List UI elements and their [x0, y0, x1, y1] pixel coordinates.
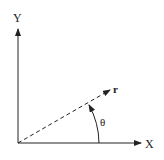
r-vector-line: [18, 90, 110, 143]
theta-label: θ: [100, 116, 105, 128]
r-label: r: [113, 83, 118, 95]
x-axis-label: X: [145, 137, 154, 151]
y-axis-label: Y: [13, 11, 22, 25]
theta-arc: [89, 105, 99, 143]
polar-coordinates-diagram: Y X r θ: [0, 0, 164, 160]
